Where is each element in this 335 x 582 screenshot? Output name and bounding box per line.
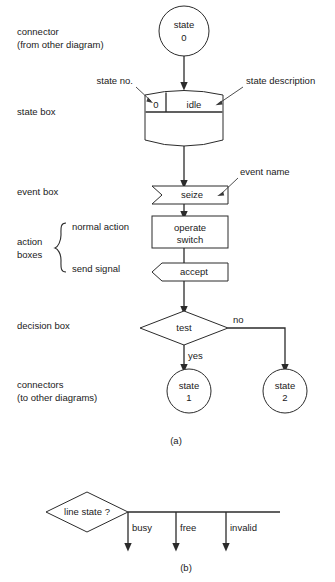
annotation-connectors-line2: (to other diagrams)	[17, 392, 97, 403]
end-connector-yes-circle	[167, 369, 211, 413]
end-connector-no-label-line2: 2	[282, 392, 287, 403]
annotation-action-boxes-line2: boxes	[17, 249, 43, 260]
annotation-connectors-line1: connectors	[17, 379, 64, 390]
annotation-decision-box: decision box	[17, 320, 70, 331]
state-box-number: 0	[153, 99, 158, 110]
state-box-description: idle	[187, 99, 202, 110]
decision-branch-no-label: no	[233, 314, 244, 325]
send-signal-box-label: accept	[180, 266, 208, 277]
annotation-event-name: event name	[240, 166, 290, 177]
annotation-connector-line2: (from other diagram)	[17, 39, 104, 50]
normal-action-box-label-line2: switch	[177, 234, 203, 245]
end-connector-no-label-line1: state	[275, 380, 296, 391]
start-connector-circle	[159, 6, 209, 56]
panel-a-caption: (a)	[170, 435, 182, 446]
action-boxes-brace	[55, 223, 66, 272]
panel-b-branch-label-2: invalid	[230, 522, 257, 533]
start-connector-label-line2: 0	[181, 32, 186, 43]
panel-b-decision-box-label: line state ?	[64, 506, 110, 517]
decision-branch-yes-label: yes	[188, 350, 203, 361]
panel-b-branch-label-1: free	[180, 522, 196, 533]
end-connector-no-circle	[263, 369, 307, 413]
annotation-event-box: event box	[17, 186, 58, 197]
annotation-action-boxes-line1: action	[17, 236, 42, 247]
annotation-send-signal: send signal	[72, 263, 120, 274]
state-diagram-notation-figure: connector (from other diagram) state 0 s…	[0, 0, 335, 582]
annotation-state-box: state box	[17, 106, 56, 117]
annotation-state-description: state description	[246, 75, 315, 86]
figure-root: connector (from other diagram) state 0 s…	[0, 0, 335, 582]
event-box-label: seize	[181, 189, 203, 200]
annotation-connector-line1: connector	[17, 26, 59, 37]
panel-b-caption: (b)	[180, 562, 192, 573]
annotation-state-no: state no.	[97, 75, 133, 86]
annotation-normal-action: normal action	[72, 221, 129, 232]
normal-action-box-label-line1: operate	[174, 222, 206, 233]
end-connector-yes-label-line2: 1	[186, 392, 191, 403]
start-connector-label-line1: state	[174, 19, 195, 30]
edge-decision-no	[228, 328, 285, 368]
decision-box-label: test	[176, 322, 192, 333]
panel-b-branch-label-0: busy	[132, 522, 152, 533]
end-connector-yes-label-line1: state	[179, 380, 200, 391]
